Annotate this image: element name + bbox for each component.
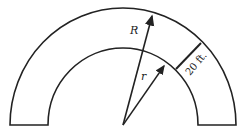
annulus-diagram: R r 20 ft. <box>0 0 241 137</box>
width-label: 20 ft. <box>183 50 209 78</box>
inner-radius-label: r <box>141 70 147 83</box>
annulus-outline <box>10 8 236 125</box>
outer-radius-label: R <box>129 24 138 37</box>
